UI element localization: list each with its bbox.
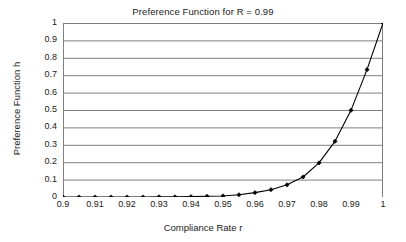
data-point-marker: [63, 195, 65, 197]
data-point-marker: [269, 188, 273, 192]
data-point-marker: [237, 193, 241, 197]
y-axis-tick-label: 0.4: [31, 122, 57, 131]
chart-title: Preference Function for R = 0.99: [0, 6, 406, 17]
y-axis-tick-label: 0.1: [31, 175, 57, 184]
data-point-marker: [77, 195, 81, 197]
y-axis-tick-label: 0.2: [31, 157, 57, 166]
y-axis-tick-labels: 00.10.20.30.40.50.60.70.80.91: [31, 23, 57, 197]
data-point-marker: [221, 194, 225, 197]
chart-plot-svg: [63, 23, 383, 197]
data-point-marker: [253, 191, 257, 195]
data-point-marker: [141, 195, 145, 197]
plot-area: [63, 23, 383, 197]
data-point-marker: [125, 195, 129, 197]
y-axis-tick-label: 0.9: [31, 35, 57, 44]
x-axis-title: Compliance Rate r: [0, 222, 406, 233]
data-point-marker: [365, 68, 369, 72]
y-axis-tick-label: 0.3: [31, 140, 57, 149]
y-axis-tick-label: 0.5: [31, 105, 57, 114]
x-axis-tick-label: 1: [363, 200, 403, 209]
y-axis-tick-label: 0.6: [31, 88, 57, 97]
y-axis-tick-label: 0.8: [31, 53, 57, 62]
data-point-marker: [205, 194, 209, 197]
y-axis-tick-label: 0.7: [31, 70, 57, 79]
y-axis-tick-label: 1: [31, 18, 57, 27]
data-point-marker: [157, 195, 161, 197]
data-point-marker: [349, 108, 353, 112]
chart-container: Preference Function for R = 0.99 Prefere…: [0, 0, 406, 242]
x-axis-tick-labels: 0.90.910.920.930.940.950.960.970.980.991: [0, 200, 406, 214]
data-point-marker: [109, 195, 113, 197]
data-point-marker: [173, 195, 177, 197]
data-point-marker: [285, 183, 289, 187]
data-point-marker: [93, 195, 97, 197]
y-axis-title: Preference Function h: [11, 29, 22, 189]
data-point-marker: [189, 195, 193, 197]
